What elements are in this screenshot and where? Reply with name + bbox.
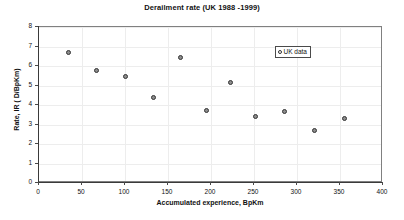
data-point — [312, 128, 317, 133]
gridline-vertical — [82, 27, 83, 181]
data-point — [178, 55, 183, 60]
y-axis-tick — [35, 46, 38, 47]
gridline-vertical — [340, 27, 341, 181]
legend-circle-marker-icon — [278, 50, 282, 54]
gridline-vertical — [211, 27, 212, 181]
x-axis-tick-label: 50 — [68, 188, 94, 195]
plot-area — [38, 26, 382, 182]
x-axis-tick-label: 100 — [111, 188, 137, 195]
y-axis-tick — [35, 26, 38, 27]
y-axis-tick — [35, 85, 38, 86]
y-axis-tick — [35, 124, 38, 125]
x-axis-tick — [339, 182, 340, 185]
data-point — [204, 108, 209, 113]
gridline-vertical — [125, 27, 126, 181]
data-point — [228, 80, 233, 85]
chart-legend: UK data — [275, 46, 312, 58]
x-axis-tick-label: 200 — [197, 188, 223, 195]
y-axis-tick — [35, 163, 38, 164]
gridline-horizontal — [39, 66, 381, 67]
x-axis-tick — [38, 182, 39, 185]
gridline-vertical — [168, 27, 169, 181]
y-axis-tick-label: 4 — [16, 100, 32, 107]
x-axis-tick — [167, 182, 168, 185]
gridline-horizontal — [39, 164, 381, 165]
data-point — [66, 50, 71, 55]
y-axis-line — [38, 26, 39, 183]
chart-figure: Derailment rate (UK 1988 -1999) Rate, IR… — [0, 0, 404, 220]
y-axis-tick-label: 8 — [16, 22, 32, 29]
data-point — [282, 109, 287, 114]
y-axis-tick — [35, 143, 38, 144]
x-axis-tick-label: 300 — [283, 188, 309, 195]
x-axis-tick-label: 0 — [25, 188, 51, 195]
data-point — [151, 95, 156, 100]
y-axis-tick-label: 1 — [16, 159, 32, 166]
gridline-horizontal — [39, 125, 381, 126]
x-axis-tick-label: 250 — [240, 188, 266, 195]
y-axis-tick — [35, 65, 38, 66]
legend-entry-label: UK data — [284, 48, 308, 56]
y-axis-tick — [35, 104, 38, 105]
y-axis-tick-label: 6 — [16, 61, 32, 68]
gridline-vertical — [254, 27, 255, 181]
x-axis-tick — [296, 182, 297, 185]
x-axis-tick — [253, 182, 254, 185]
x-axis-title: Accumulated experience, BpKm — [38, 199, 382, 206]
data-point — [342, 116, 347, 121]
x-axis-tick — [81, 182, 82, 185]
chart-title: Derailment rate (UK 1988 -1999) — [0, 3, 404, 12]
y-axis-tick-label: 3 — [16, 120, 32, 127]
x-axis-tick — [210, 182, 211, 185]
x-axis-tick-label: 350 — [326, 188, 352, 195]
x-axis-tick — [382, 182, 383, 185]
y-axis-tick-label: 0 — [16, 178, 32, 185]
gridline-horizontal — [39, 105, 381, 106]
y-axis-tick-label: 5 — [16, 81, 32, 88]
data-point — [253, 114, 258, 119]
data-point — [94, 68, 99, 73]
gridline-horizontal — [39, 86, 381, 87]
y-axis-tick-label: 2 — [16, 139, 32, 146]
gridline-horizontal — [39, 27, 381, 28]
y-axis-tick-label: 7 — [16, 42, 32, 49]
x-axis-tick — [124, 182, 125, 185]
x-axis-tick-label: 400 — [369, 188, 395, 195]
data-point — [123, 74, 128, 79]
x-axis-tick-label: 150 — [154, 188, 180, 195]
gridline-horizontal — [39, 144, 381, 145]
gridline-horizontal — [39, 47, 381, 48]
